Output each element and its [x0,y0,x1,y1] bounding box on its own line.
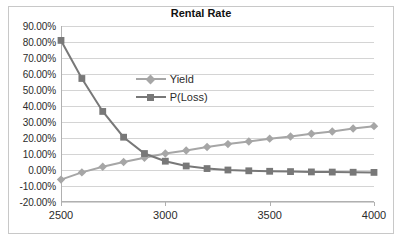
data-point-marker [350,169,357,176]
data-point-marker [370,122,378,130]
legend-label: Yield [170,73,194,85]
x-axis-tick-label: 3500 [257,209,281,221]
x-axis-tick-label: 3000 [153,209,177,221]
data-point-marker [120,134,127,141]
legend-item-yield[interactable]: Yield [136,70,208,88]
y-axis-tick-label: 70.00% [23,53,56,64]
chart-title: Rental Rate [9,7,393,19]
data-point-marker [286,132,294,140]
x-axis-tick-mark [374,202,375,206]
data-point-marker [349,124,357,132]
legend: YieldP(Loss) [136,70,208,106]
x-axis-tick-mark [270,202,271,206]
data-point-marker [328,127,336,135]
data-point-marker [183,163,190,170]
data-point-marker [266,168,273,175]
y-axis-tick-label: 20.00% [23,133,56,144]
data-point-marker [141,150,148,157]
plot-area: 90.00%80.00%70.00%60.00%50.00%40.00%30.0… [61,26,374,202]
data-point-marker [78,75,85,82]
data-point-marker [307,129,315,137]
data-point-marker [57,175,65,183]
chart-frame: Rental Rate 90.00%80.00%70.00%60.00%50.0… [8,6,394,234]
y-axis-tick-label: 10.00% [23,149,56,160]
data-point-marker [78,168,86,176]
series-line [61,40,374,172]
data-point-marker [182,146,190,154]
y-axis-tick-label: 40.00% [23,101,56,112]
legend-square-marker-icon [136,91,166,103]
data-point-marker [58,37,65,44]
series-plot [61,26,374,202]
data-point-marker [225,167,232,174]
gridline [61,202,374,203]
series-p-loss [58,37,378,176]
data-point-marker [161,149,169,157]
data-point-marker [308,169,315,176]
data-point-marker [99,163,107,171]
legend-diamond-marker-icon [136,73,166,85]
data-point-marker [204,165,211,172]
legend-item-p-loss[interactable]: P(Loss) [136,88,208,106]
y-axis-tick-label: 0.00% [28,165,56,176]
y-axis-tick-label: 30.00% [23,117,56,128]
data-point-marker [245,167,252,174]
x-axis-tick-mark [61,202,62,206]
data-point-marker [287,168,294,175]
y-axis-tick-label: 60.00% [23,69,56,80]
legend-label: P(Loss) [170,91,208,103]
data-point-marker [203,143,211,151]
data-point-marker [371,169,378,176]
data-point-marker [224,140,232,148]
data-point-marker [99,108,106,115]
y-axis-tick-label: -10.00% [19,181,56,192]
x-axis-tick-label: 2500 [49,209,73,221]
y-axis-tick-label: 50.00% [23,85,56,96]
x-axis-tick-mark [165,202,166,206]
y-axis-tick-label: 80.00% [23,37,56,48]
data-point-marker [162,158,169,165]
x-axis-tick-label: 4000 [362,209,386,221]
data-point-marker [329,169,336,176]
data-point-marker [265,134,273,142]
data-point-marker [119,158,127,166]
y-axis-tick-label: -20.00% [19,197,56,208]
data-point-marker [245,137,253,145]
y-axis-tick-label: 90.00% [23,21,56,32]
